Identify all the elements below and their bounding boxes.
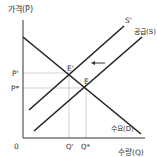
supply-shifted-label: S' [125,16,132,25]
demand-curve [23,37,141,134]
q-prime-label: Q' [66,143,74,151]
q-star-label: Q* [81,143,91,151]
p-prime-label: P' [12,69,19,78]
supply-label: 공급(S) [134,28,156,36]
supply-demand-diagram: 가격(P) 수량(Q) 0 P' P* Q' Q* S' 공급(S) 수요(D)… [0,0,157,157]
x-axis-label: 수량(Q) [118,148,144,157]
origin-label: 0 [14,142,19,151]
demand-label: 수요(D) [111,125,134,133]
p-star-label: P* [11,84,20,93]
y-axis-label: 가격(P) [8,4,33,14]
supply-shifted-curve [29,26,124,110]
arrow-left-icon [91,61,95,65]
e-prime-label: E' [67,64,74,73]
e-label: E [84,77,89,86]
